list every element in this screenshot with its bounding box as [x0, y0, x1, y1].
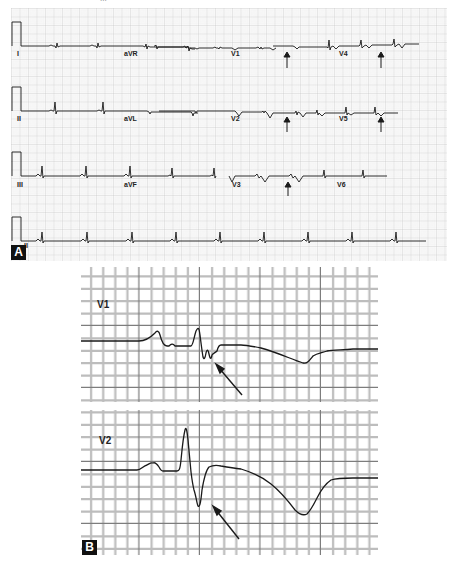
- panel-b-magnified-v1-v2: V1: [81, 267, 378, 555]
- lead-label-aVR: aVR: [124, 50, 138, 57]
- lead-label-aVF: aVF: [124, 181, 138, 188]
- lead-label-V6: V6: [337, 181, 346, 188]
- ecg-grid-v2: [81, 410, 378, 555]
- ecg-magnified-chart: V1: [81, 267, 378, 555]
- v2-subpanel: V2: [81, 410, 378, 555]
- lead-label-V2: V2: [231, 115, 240, 122]
- v1-subpanel: V1: [81, 267, 378, 402]
- panel-label-a: A: [11, 245, 26, 260]
- lead-label-III: III: [17, 181, 23, 188]
- lead-label-I: I: [17, 50, 19, 57]
- caption-text: ...: [100, 0, 107, 3]
- ecg-12-lead-chart: I aVR V1 V4 II aVL V2 V5 III aVF V3 V6 I…: [11, 8, 447, 261]
- lead-label-V3: V3: [232, 181, 241, 188]
- lead-label-V5: V5: [339, 115, 348, 122]
- lead-label-aVL: aVL: [124, 115, 138, 122]
- panel-a-12-lead-ecg: I aVR V1 V4 II aVL V2 V5 III aVF V3 V6 I…: [11, 8, 447, 261]
- lead-label-II: II: [17, 115, 21, 122]
- lead-label-V1: V1: [231, 50, 240, 57]
- lead-label-v1: V1: [97, 299, 110, 310]
- ecg-grid-v1: [81, 267, 378, 402]
- truncated-caption: ...: [0, 0, 458, 5]
- lead-label-V4: V4: [339, 50, 348, 57]
- subpanel-separator: [81, 402, 378, 410]
- lead-label-v2: V2: [99, 435, 112, 446]
- panel-label-b: B: [82, 540, 97, 555]
